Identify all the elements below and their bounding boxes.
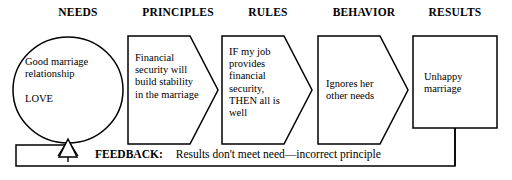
header-results: RESULTS [429, 6, 482, 18]
feedback-text: Results don't meet need—incorrect princi… [176, 148, 381, 160]
header-rules: RULES [248, 6, 287, 18]
rules-node-text: IF my job provides financial security, T… [229, 46, 307, 119]
flow-diagram: NEEDS PRINCIPLES RULES BEHAVIOR RESULTS … [0, 0, 512, 180]
results-node-text: Unhappy marriage [424, 71, 492, 95]
feedback-caption: FEEDBACK: Results don't meet need—incorr… [95, 148, 381, 160]
header-needs: NEEDS [58, 6, 97, 18]
behavior-node-text: Ignores her other needs [326, 78, 402, 102]
feedback-label: FEEDBACK: [95, 148, 163, 160]
needs-node-text: Good marriage relationship LOVE [25, 56, 117, 105]
header-behavior: BEHAVIOR [333, 6, 396, 18]
principles-node-text: Financial security will build stability … [135, 52, 217, 101]
header-principles: PRINCIPLES [142, 6, 214, 18]
